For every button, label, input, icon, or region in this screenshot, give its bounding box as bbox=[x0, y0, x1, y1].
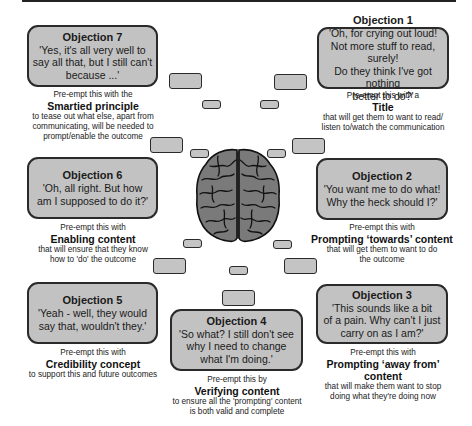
response-lead: Pre-empt this with bbox=[22, 223, 164, 233]
response-desc: to ensure all the 'prompting' content is… bbox=[166, 397, 308, 417]
connector-4-small bbox=[229, 266, 248, 275]
response-lead: Pre-empt this with bbox=[22, 348, 164, 358]
objection-quote: 'Oh, all right. But how am I supposed to… bbox=[37, 182, 148, 207]
response-lead: Pre-empt this with bbox=[304, 223, 460, 233]
response-lead: Pre-empt this with the bbox=[22, 90, 164, 100]
top-rule bbox=[22, 0, 456, 2]
objection-quote: 'You want me to do what! Why the heck sh… bbox=[324, 183, 441, 208]
objection-7-box: Objection 7 'Yes, it's all very well to … bbox=[27, 25, 158, 87]
objection-2-box: Objection 2 'You want me to do what! Why… bbox=[316, 158, 448, 220]
connector-5-large bbox=[153, 258, 186, 274]
objection-title: Objection 7 bbox=[63, 31, 123, 44]
objection-4-response: Pre-empt this by Verifying content to en… bbox=[166, 375, 308, 417]
response-key: Prompting ‘towards’ content bbox=[304, 233, 460, 245]
connector-1-large bbox=[274, 74, 307, 90]
objection-quote: 'So what? I still don't see why I need t… bbox=[179, 328, 294, 366]
response-key: Enabling content bbox=[22, 233, 164, 245]
brain-left-hemisphere bbox=[197, 150, 237, 242]
objection-3-response: Pre-empt this with Prompting ‘away from’… bbox=[308, 348, 458, 402]
response-key: Verifying content bbox=[166, 385, 308, 397]
connector-2-large bbox=[292, 138, 325, 154]
objection-2-response: Pre-empt this with Prompting ‘towards’ c… bbox=[304, 223, 460, 265]
response-lead: Pre-empt this by bbox=[166, 375, 308, 385]
objection-title: Objection 3 bbox=[352, 289, 412, 302]
objection-quote: 'Yeah - well, they would say that, would… bbox=[38, 307, 147, 332]
response-desc: that will get them to want to read/ list… bbox=[318, 113, 448, 133]
connector-7-small bbox=[202, 100, 221, 109]
response-desc: to tease out what else, apart from commu… bbox=[22, 112, 164, 142]
objection-6-response: Pre-empt this with Enabling content that… bbox=[22, 223, 164, 265]
response-key: Prompting ‘away from’ content bbox=[308, 358, 458, 382]
connector-3-large bbox=[284, 258, 317, 274]
response-desc: that will get them to want to do the out… bbox=[304, 245, 460, 265]
response-lead: Pre-empt this with bbox=[308, 348, 458, 358]
objection-1-response: Pre-empt this with a Title that will get… bbox=[318, 91, 448, 133]
objection-title: Objection 1 bbox=[353, 14, 413, 27]
objection-4-box: Objection 4 'So what? I still don't see … bbox=[170, 309, 303, 371]
objection-1-box: Objection 1 'Oh, for crying out loud! No… bbox=[317, 27, 449, 89]
objection-title: Objection 5 bbox=[63, 294, 123, 307]
objection-title: Objection 6 bbox=[63, 169, 123, 182]
objection-quote: 'Yes, it's all very well to say all that… bbox=[33, 44, 152, 82]
objection-title: Objection 2 bbox=[352, 170, 412, 183]
connector-7-large bbox=[169, 73, 202, 89]
objection-7-response: Pre-empt this with the Smartied principl… bbox=[22, 90, 164, 142]
objection-6-box: Objection 6 'Oh, all right. But how am I… bbox=[27, 157, 158, 219]
response-key: Credibility concept bbox=[22, 358, 164, 370]
brain-right-hemisphere bbox=[239, 150, 279, 242]
response-lead: Pre-empt this with a bbox=[318, 91, 448, 101]
connector-6-large bbox=[150, 137, 183, 153]
response-desc: that will make them want to stop doing w… bbox=[308, 382, 458, 402]
response-key: Smartied principle bbox=[22, 100, 164, 112]
response-desc: that will ensure that they know how to '… bbox=[22, 245, 164, 265]
response-key: Title bbox=[318, 101, 448, 113]
objection-3-box: Objection 3 'This sounds like a bit of a… bbox=[316, 284, 448, 344]
brain-icon bbox=[194, 146, 282, 244]
objection-title: Objection 4 bbox=[207, 315, 267, 328]
objection-5-response: Pre-empt this with Credibility concept t… bbox=[22, 348, 164, 380]
objection-quote: 'This sounds like a bit of a pain. Why c… bbox=[324, 302, 441, 340]
response-desc: to support this and future outcomes bbox=[22, 370, 164, 380]
connector-4-large bbox=[222, 290, 255, 306]
connector-1-small bbox=[260, 100, 279, 109]
objection-5-box: Objection 5 'Yeah - well, they would say… bbox=[27, 282, 158, 344]
